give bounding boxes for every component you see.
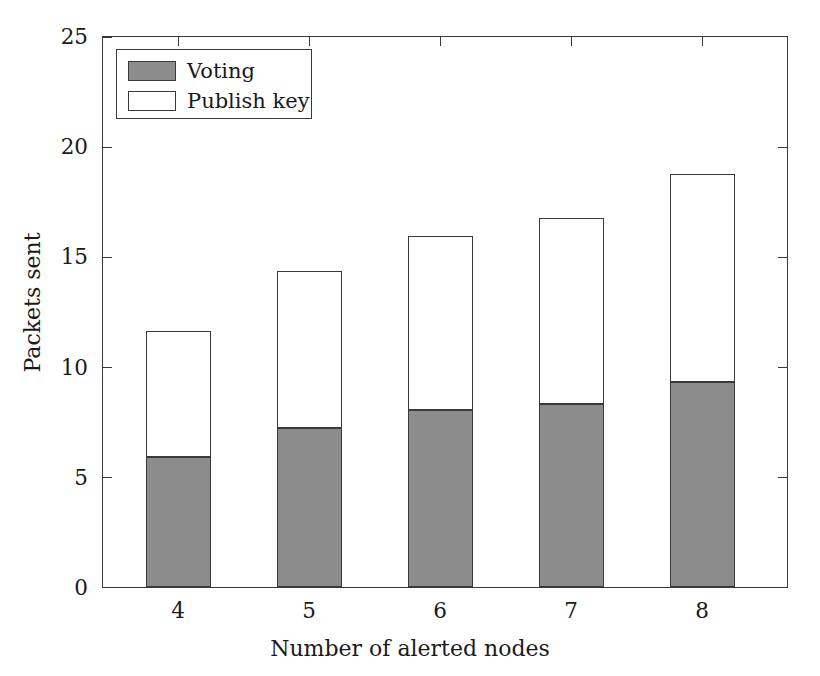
bar-group-7 [539, 218, 604, 587]
x-tick-label-7: 7 [536, 600, 606, 622]
plot-area: Voting Publish key [102, 36, 788, 588]
bar-group-8 [670, 174, 735, 587]
y-axis-tick-right-20 [778, 147, 787, 148]
bar-segment-publish-key [277, 271, 342, 428]
x-tick-label-8: 8 [667, 600, 737, 622]
bar-segment-publish-key [408, 236, 473, 410]
bar-segment-publish-key [539, 218, 604, 403]
bar-segment-voting [539, 404, 604, 587]
y-axis-tick-5 [103, 477, 112, 478]
bar-segment-voting [408, 410, 473, 587]
y-axis-tick-25 [103, 37, 112, 38]
legend-label-publish-key: Publish key [187, 90, 310, 112]
x-tick-label-5: 5 [274, 600, 344, 622]
y-axis-tick-10 [103, 367, 112, 368]
y-tick-label-25: 25 [8, 26, 88, 48]
bar-segment-voting [670, 382, 735, 587]
y-tick-label-10: 10 [8, 357, 88, 379]
x-tick-label-6: 6 [405, 600, 475, 622]
x-axis-tick-top-7 [571, 37, 572, 46]
legend-label-voting: Voting [187, 60, 255, 82]
y-axis-tick-15 [103, 257, 112, 258]
y-axis-tick-right-10 [778, 367, 787, 368]
y-axis-tick-20 [103, 147, 112, 148]
legend-swatch-publish-key [128, 91, 176, 111]
y-tick-label-20: 20 [8, 136, 88, 158]
legend-swatch-voting [128, 61, 176, 81]
bar-segment-publish-key [670, 174, 735, 382]
legend-entry-voting: Voting [128, 60, 255, 82]
bar-segment-voting [277, 428, 342, 587]
y-axis-tick-right-15 [778, 257, 787, 258]
x-axis-tick-top-5 [309, 37, 310, 46]
bar-group-4 [146, 331, 211, 587]
bar-group-6 [408, 236, 473, 587]
bar-group-5 [277, 271, 342, 587]
stacked-bar-chart-figure: Packets sent 0 5 10 15 20 25 4 5 6 7 8 N… [0, 0, 820, 676]
y-axis-title: Packets sent [20, 183, 45, 423]
x-axis-tick-top-8 [702, 37, 703, 46]
y-tick-label-5: 5 [8, 467, 88, 489]
x-axis-tick-top-4 [178, 37, 179, 46]
x-tick-label-4: 4 [143, 600, 213, 622]
y-axis-tick-right-0 [778, 587, 787, 588]
chart-legend: Voting Publish key [116, 49, 312, 119]
x-axis-tick-top-6 [440, 37, 441, 46]
x-axis-title: Number of alerted nodes [0, 636, 820, 661]
bar-segment-voting [146, 457, 211, 587]
y-axis-tick-0 [103, 587, 112, 588]
y-tick-label-15: 15 [8, 246, 88, 268]
y-axis-tick-right-5 [778, 477, 787, 478]
bar-segment-publish-key [146, 331, 211, 457]
y-tick-label-0: 0 [8, 577, 88, 599]
legend-entry-publish-key: Publish key [128, 90, 310, 112]
